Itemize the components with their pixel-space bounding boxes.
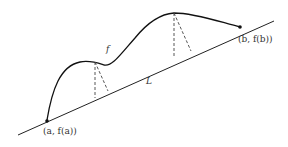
perpendicular-dashed-1	[95, 62, 108, 91]
perpendicular-dashed-2	[174, 13, 191, 51]
point-a	[45, 119, 49, 123]
line-label-L: L	[145, 76, 152, 86]
mean-value-diagram: f L (a, f(a)) (b, f(b))	[0, 0, 288, 147]
point-b	[238, 25, 242, 29]
point-b-label: (b, f(b))	[238, 34, 273, 44]
curve-f	[47, 13, 240, 120]
point-a-label: (a, f(a))	[43, 126, 77, 136]
curve-label-f: f	[105, 44, 111, 54]
